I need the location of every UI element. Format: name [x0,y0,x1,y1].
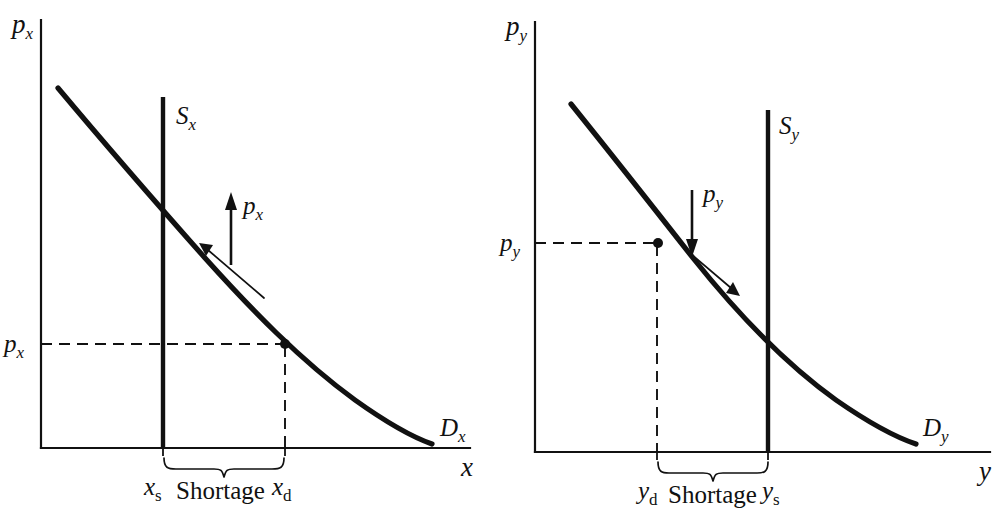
quantity-supplied-label-y: ys [759,477,780,509]
price-pressure-arrowhead-x [225,192,237,210]
x-axis-label-y-panel: y [976,456,991,486]
chart-panel-x: px px Sx Dx px xs Shortage xd x [0,0,500,510]
quantity-demanded-label-x: xd [271,473,292,505]
chart-panel-y: py py Sy Dy py yd Shortage ys y [498,0,998,510]
quantity-demanded-label-y: yd [635,477,658,509]
price-ceiling-point-x [280,339,290,349]
movement-arrow-y [684,248,731,288]
price-label-y: py [498,229,521,261]
demand-curve-label-x: Dx [439,414,466,446]
movement-arrowhead-y [726,282,740,296]
price-pressure-label-y: py [701,180,724,212]
demand-curve-x [58,88,432,444]
demand-curve-y [571,104,916,444]
x-axis-label-x-panel: x [460,452,473,482]
supply-curve-label-x: Sx [176,102,197,134]
shortage-brace-y [658,462,768,481]
figure-root: px px Sx Dx px xs Shortage xd x [0,0,998,510]
y-axis-label-y-panel: py [504,11,528,45]
supply-curve-label-y: Sy [779,112,800,144]
price-ceiling-point-y [653,238,663,248]
shortage-label-x: Shortage [176,477,265,504]
y-axis-label-x-panel: px [10,9,34,43]
price-pressure-label-x: px [241,192,264,224]
price-label-x: px [2,330,25,362]
demand-curve-label-y: Dy [922,414,949,446]
quantity-supplied-label-x: xs [143,473,162,505]
chart-svg-y: py py Sy Dy py yd Shortage ys y [498,0,998,510]
chart-svg-x: px px Sx Dx px xs Shortage xd x [0,0,500,510]
shortage-label-y: Shortage [668,481,757,508]
shortage-brace-x [164,458,284,477]
